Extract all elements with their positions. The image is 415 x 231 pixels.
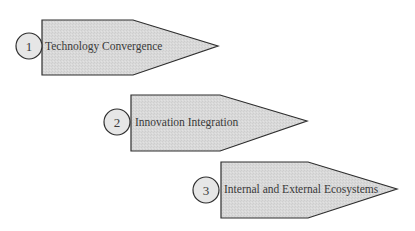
step-label: Innovation Integration xyxy=(135,116,238,129)
step-number: 2 xyxy=(114,115,121,130)
step-label: Technology Convergence xyxy=(45,40,162,53)
step-2: 2 Innovation Integration xyxy=(104,95,307,151)
step-1: 1 Technology Convergence xyxy=(16,20,218,75)
step-label: Internal and External Ecosystems xyxy=(224,183,379,196)
step-3: 3 Internal and External Ecosystems xyxy=(193,162,397,218)
diagram-canvas: 1 Technology Convergence 2 Innovation In… xyxy=(0,0,415,231)
step-number: 3 xyxy=(203,183,210,198)
step-number: 1 xyxy=(26,39,33,54)
